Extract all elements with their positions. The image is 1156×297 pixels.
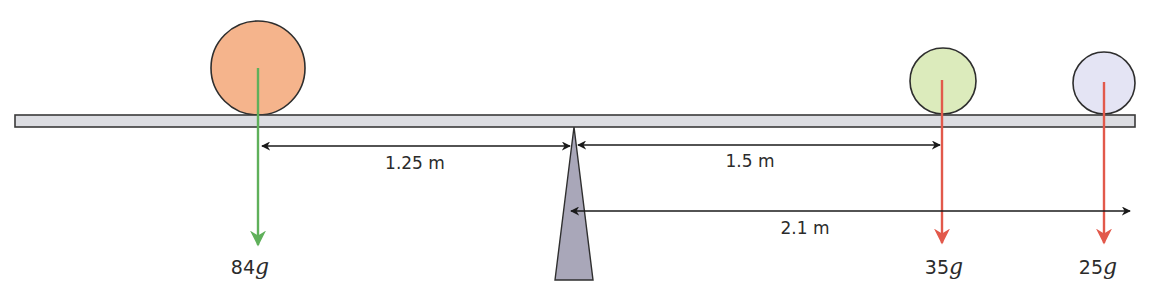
lever-diagram [0, 0, 1156, 297]
right-force-label: 25g [1079, 254, 1117, 279]
left-distance-label: 1.25 m [385, 153, 445, 173]
pivot-fulcrum [555, 127, 593, 280]
right-force-value: 25 [1079, 256, 1103, 278]
beam [15, 115, 1135, 127]
left-force-value: 84 [231, 256, 255, 278]
middle-distance-label: 1.5 m [726, 151, 775, 171]
right-force-unit: g [1103, 254, 1117, 279]
right-distance-label: 2.1 m [781, 218, 830, 238]
left-force-label: 84g [231, 254, 269, 279]
middle-force-value: 35 [925, 256, 949, 278]
middle-force-unit: g [949, 254, 963, 279]
left-force-unit: g [255, 254, 269, 279]
middle-force-label: 35g [925, 254, 963, 279]
